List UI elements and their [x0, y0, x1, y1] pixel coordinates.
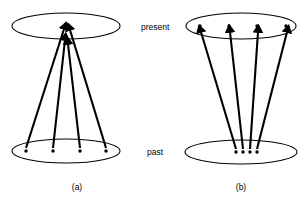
- transition-arrow: [250, 32, 258, 149]
- state-node-dot: [284, 24, 287, 27]
- present-ellipse-a: [12, 13, 120, 39]
- transition-arrow: [257, 32, 287, 149]
- transition-arrow: [230, 32, 243, 149]
- arrows-a: [26, 29, 106, 148]
- panel-caption-b: (b): [236, 182, 247, 192]
- state-node-dot: [24, 149, 27, 152]
- past-ellipse-b: [185, 140, 297, 164]
- diagram-canvas: (a) (b) present past: [0, 0, 306, 204]
- state-node-dot: [227, 24, 230, 27]
- transition-arrow: [26, 29, 64, 148]
- panel-b: (b): [185, 13, 297, 192]
- state-node-dot: [234, 150, 237, 153]
- state-node-dot: [78, 149, 81, 152]
- present-nodes-b: [198, 24, 287, 27]
- past-label: past: [147, 147, 164, 157]
- present-nodes-a: [64, 22, 67, 25]
- state-node-dot: [198, 24, 201, 27]
- state-node-dot: [241, 150, 244, 153]
- state-node-dot: [104, 149, 107, 152]
- present-label: present: [141, 22, 170, 32]
- state-node-dot: [255, 24, 258, 27]
- state-node-dot: [64, 22, 67, 25]
- panel-caption-a: (a): [72, 182, 83, 192]
- arrows-b: [201, 32, 287, 149]
- panel-a: (a): [12, 13, 120, 192]
- transition-arrow: [70, 30, 106, 148]
- past-nodes-a: [24, 149, 107, 152]
- past-nodes-b: [234, 150, 258, 153]
- state-node-dot: [51, 149, 54, 152]
- state-node-dot: [248, 150, 251, 153]
- transition-arrow: [201, 32, 236, 149]
- state-node-dot: [255, 150, 258, 153]
- figure-container: (a) (b) present past: [0, 0, 306, 204]
